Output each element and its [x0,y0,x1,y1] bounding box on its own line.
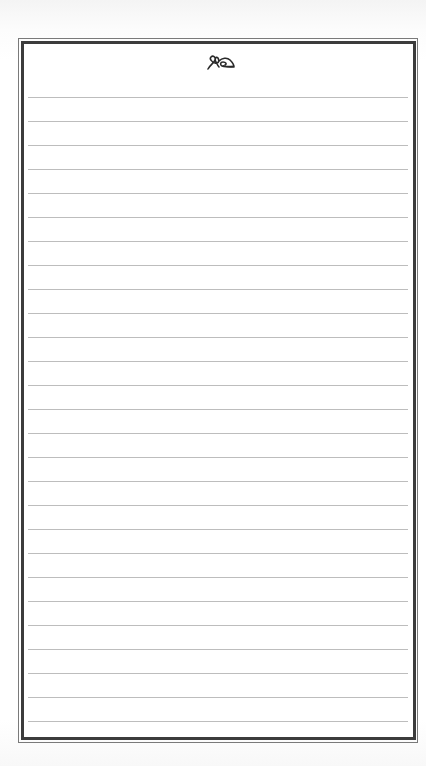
ruled-line [28,337,408,338]
ruled-line [28,97,408,98]
ruled-line [28,265,408,266]
ruled-line [28,409,408,410]
ruled-line [28,313,408,314]
ruled-line [28,385,408,386]
ruled-line [28,241,408,242]
ruled-lines [28,0,408,766]
ruled-line [28,433,408,434]
ruled-line [28,481,408,482]
ruled-line [28,457,408,458]
ruled-line [28,505,408,506]
ruled-line [28,673,408,674]
ruled-line [28,721,408,722]
ruled-line [28,217,408,218]
ruled-line [28,169,408,170]
ruled-line [28,289,408,290]
notepaper-page [0,0,426,766]
ruled-line [28,145,408,146]
ruled-line [28,121,408,122]
ruled-line [28,361,408,362]
ruled-line [28,577,408,578]
ruled-line [28,649,408,650]
ruled-line [28,529,408,530]
ruled-line [28,625,408,626]
ruled-line [28,601,408,602]
ruled-line [28,193,408,194]
ruled-line [28,553,408,554]
ruled-line [28,697,408,698]
